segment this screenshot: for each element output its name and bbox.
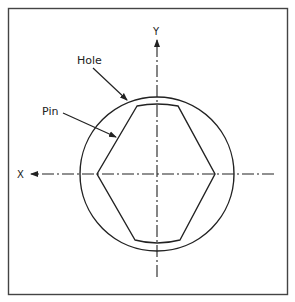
pin-leader-arrow [63, 113, 116, 137]
diagram-canvas: X Y Hole Pin [0, 0, 295, 302]
x-axis-label: X [17, 169, 24, 180]
hole-leader-arrow [93, 68, 127, 100]
diagram-frame [9, 9, 288, 295]
y-axis-label: Y [152, 26, 160, 37]
pin-label: Pin [42, 105, 58, 118]
hole-label: Hole [77, 54, 102, 67]
